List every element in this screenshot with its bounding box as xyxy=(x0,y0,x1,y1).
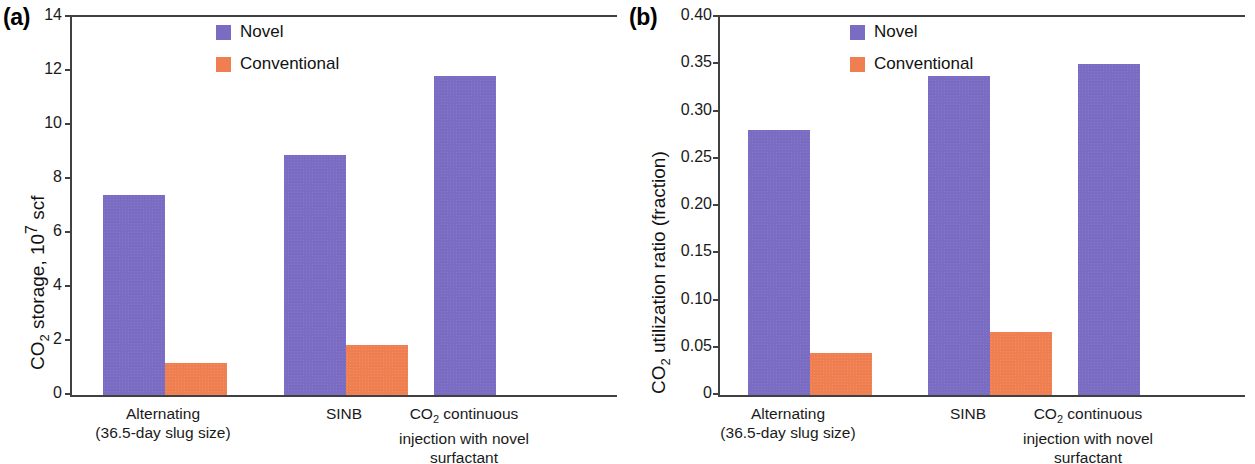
x-category-label-co2-continuous: CO2 continuous injection with novel surf… xyxy=(379,404,549,464)
cat-line-1: Alternating xyxy=(693,404,883,423)
legend-entry-novel: Novel xyxy=(850,22,973,42)
legend-swatch-novel-icon xyxy=(850,25,865,40)
y-tick-label: 4 xyxy=(36,276,62,294)
x-category-label-alternating: Alternating (36.5-day slug size) xyxy=(68,404,258,442)
y-tick-label: 0.25 xyxy=(668,148,712,166)
panel-b-tick-0 xyxy=(713,393,720,395)
bar-conventional-sinb[interactable] xyxy=(990,332,1052,395)
y-tick-label: 0.40 xyxy=(668,6,712,24)
cat-line-1-post: continuous xyxy=(439,405,518,422)
panel-b-tick-040 xyxy=(713,15,720,17)
panel-b-plot-area xyxy=(718,15,1245,397)
legend-label-conventional: Conventional xyxy=(240,54,339,74)
panel-b-tick-010 xyxy=(713,299,720,301)
panel-b-co2-utilization-ratio: (b) CO2 utilization ratio (fraction) 0.4… xyxy=(628,0,1255,464)
cat-line-1: Alternating xyxy=(68,404,258,423)
cat-line-2: injection with novel xyxy=(379,429,549,448)
bar-novel-sinb[interactable] xyxy=(928,76,990,395)
legend-label-conventional: Conventional xyxy=(874,54,973,74)
y-tick-label: 12 xyxy=(36,60,62,78)
panel-b-tick-005 xyxy=(713,346,720,348)
panel-b-tag: (b) xyxy=(629,4,657,31)
panel-b-y-axis-title-subscript: 2 xyxy=(658,358,673,365)
legend-label-novel: Novel xyxy=(240,22,283,42)
panel-a-tick-12 xyxy=(65,69,72,71)
panel-b-y-axis-title: CO2 utilization ratio (fraction) xyxy=(648,151,673,394)
panel-a-tick-4 xyxy=(65,285,72,287)
panel-a-tick-6 xyxy=(65,231,72,233)
legend-swatch-novel-icon xyxy=(216,25,231,40)
panel-a-tag: (a) xyxy=(3,4,30,31)
legend-entry-conventional: Conventional xyxy=(850,54,973,74)
panel-b-y-axis-title-pre: CO xyxy=(648,366,669,395)
panel-a-bars xyxy=(72,17,617,395)
y-tick-label: 0.30 xyxy=(668,101,712,119)
panel-a-y-axis-title-post: scf xyxy=(27,196,48,226)
panel-b-tick-025 xyxy=(713,157,720,159)
y-tick-label: 0 xyxy=(668,384,712,402)
cat-line-3: surfactant xyxy=(379,448,549,464)
x-category-label-alternating: Alternating (36.5-day slug size) xyxy=(693,404,883,442)
panel-b-y-axis-title-mid: utilization ratio (fraction) xyxy=(648,151,669,358)
cat-line-3: surfactant xyxy=(1003,448,1173,464)
panel-b-legend: Novel Conventional xyxy=(850,22,973,86)
panel-a-tick-2 xyxy=(65,339,72,341)
panel-a-legend: Novel Conventional xyxy=(216,22,339,86)
legend-swatch-conventional-icon xyxy=(850,57,865,72)
cat-line-1: CO2 continuous xyxy=(1003,404,1173,429)
panel-b-bars xyxy=(720,17,1245,395)
legend-label-novel: Novel xyxy=(874,22,917,42)
panel-b-tick-020 xyxy=(713,204,720,206)
bar-novel-alternating[interactable] xyxy=(748,130,810,395)
panel-a-tick-10 xyxy=(65,123,72,125)
y-tick-label: 0.20 xyxy=(668,195,712,213)
legend-entry-conventional: Conventional xyxy=(216,54,339,74)
panel-a-tick-14 xyxy=(65,15,72,17)
y-tick-label: 6 xyxy=(36,222,62,240)
bar-conventional-sinb[interactable] xyxy=(346,345,408,395)
bar-novel-co2-continuous[interactable] xyxy=(1078,64,1140,395)
bar-novel-alternating[interactable] xyxy=(103,195,165,395)
panel-a-plot-area xyxy=(70,15,617,397)
figure-two-panel-bar-charts: (a) CO2 storage, 107 scf 14 12 10 8 6 4 … xyxy=(0,0,1255,464)
legend-entry-novel: Novel xyxy=(216,22,339,42)
bar-conventional-alternating[interactable] xyxy=(165,363,227,395)
cat-line-1-pre: CO xyxy=(410,405,433,422)
cat-line-2: (36.5-day slug size) xyxy=(68,423,258,442)
cat-line-2: injection with novel xyxy=(1003,429,1173,448)
cat-line-2: (36.5-day slug size) xyxy=(693,423,883,442)
bar-novel-co2-continuous[interactable] xyxy=(434,76,496,395)
panel-b-tick-035 xyxy=(713,62,720,64)
y-tick-label: 8 xyxy=(36,168,62,186)
bar-novel-sinb[interactable] xyxy=(284,155,346,395)
panel-a-tick-0 xyxy=(65,393,72,395)
y-tick-label: 0.05 xyxy=(668,337,712,355)
panel-b-tick-030 xyxy=(713,110,720,112)
cat-line-1: CO2 continuous xyxy=(379,404,549,429)
y-tick-label: 0.35 xyxy=(668,53,712,71)
y-tick-label: 14 xyxy=(36,6,62,24)
y-tick-label: 0.15 xyxy=(668,242,712,260)
cat-line-1-pre: CO xyxy=(1034,405,1057,422)
x-category-label-co2-continuous: CO2 continuous injection with novel surf… xyxy=(1003,404,1173,464)
bar-conventional-alternating[interactable] xyxy=(810,353,872,396)
y-tick-label: 2 xyxy=(36,330,62,348)
y-tick-label: 10 xyxy=(36,114,62,132)
cat-line-1-post: continuous xyxy=(1063,405,1142,422)
panel-a-tick-8 xyxy=(65,177,72,179)
y-tick-label: 0.10 xyxy=(668,290,712,308)
panel-b-tick-015 xyxy=(713,251,720,253)
legend-swatch-conventional-icon xyxy=(216,57,231,72)
panel-a-co2-storage: (a) CO2 storage, 107 scf 14 12 10 8 6 4 … xyxy=(0,0,628,464)
y-tick-label: 0 xyxy=(36,384,62,402)
